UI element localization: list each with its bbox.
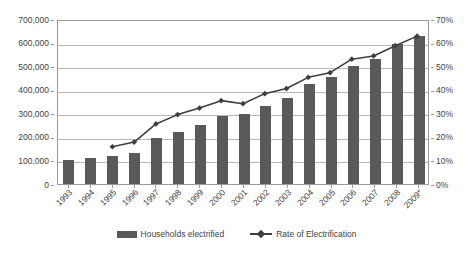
line-series-rate-of-electrification [58, 21, 428, 184]
y-axis-left-tick-label: 0 [44, 181, 49, 190]
line-marker-2002 [262, 91, 268, 97]
y-axis-left-tick-mark [51, 138, 54, 139]
y-axis-right: 0%10%20%30%40%50%60%70% [431, 20, 473, 185]
y-axis-left-tick-mark [51, 44, 54, 45]
legend-line-diamond-marker-icon [250, 230, 272, 238]
line-marker-2009-est [414, 33, 420, 39]
line-marker-2001 [240, 101, 246, 107]
chart-legend: Households electrifiedRate of Electrific… [0, 229, 473, 239]
y-axis-right-tick-mark [431, 67, 434, 68]
y-axis-left-tick-label: 300,000 [18, 110, 49, 119]
y-axis-left-tick-label: 100,000 [18, 157, 49, 166]
legend-item-label: Households electrified [141, 229, 225, 239]
line-marker-2004 [305, 74, 311, 80]
line-marker-2003 [284, 86, 290, 92]
x-axis-tick-mark [155, 185, 156, 188]
line-marker-1998 [175, 112, 181, 118]
y-axis-left-tick-mark [51, 185, 54, 186]
y-axis-left-tick-mark [51, 91, 54, 92]
y-axis-right-tick-label: 60% [436, 39, 453, 48]
line-marker-2000 [218, 98, 224, 104]
plot-area [57, 20, 429, 185]
y-axis-left: 0100,000200,000300,000400,000500,000600,… [0, 20, 54, 185]
line-marker-2007 [371, 53, 377, 59]
y-axis-left-tick-mark [51, 114, 54, 115]
y-axis-left-tick-label: 600,000 [18, 39, 49, 48]
y-axis-right-tick-label: 50% [436, 63, 453, 72]
line-marker-1995 [110, 144, 116, 150]
y-axis-right-tick-mark [431, 44, 434, 45]
y-axis-right-tick-mark [431, 91, 434, 92]
y-axis-right-tick-label: 30% [436, 110, 453, 119]
y-axis-right-tick-mark [431, 20, 434, 21]
y-axis-left-tick-label: 200,000 [18, 133, 49, 142]
y-axis-right-tick-label: 10% [436, 157, 453, 166]
y-axis-left-tick-mark [51, 67, 54, 68]
y-axis-right-tick-label: 70% [436, 16, 453, 25]
x-axis-years: 1993199419951996199719981999200020012002… [57, 186, 429, 226]
legend-bar-swatch-icon [117, 231, 137, 238]
y-axis-left-tick-mark [51, 20, 54, 21]
y-axis-left-tick-label: 700,000 [18, 16, 49, 25]
y-axis-right-tick-label: 20% [436, 133, 453, 142]
line-marker-2008 [392, 43, 398, 49]
y-axis-right-tick-label: 40% [436, 86, 453, 95]
y-axis-right-tick-label: 0% [436, 181, 448, 190]
y-axis-right-tick-mark [431, 114, 434, 115]
y-axis-left-tick-label: 500,000 [18, 63, 49, 72]
y-axis-right-tick-mark [431, 138, 434, 139]
legend-item-rate-of-electrification: Rate of Electrification [250, 229, 356, 239]
y-axis-left-tick-mark [51, 161, 54, 162]
chart-container: 0100,000200,000300,000400,000500,000600,… [0, 0, 473, 256]
line-marker-1999 [197, 105, 203, 111]
legend-item-households-electrified: Households electrified [117, 229, 225, 239]
y-axis-right-tick-mark [431, 185, 434, 186]
y-axis-right-tick-mark [431, 161, 434, 162]
legend-item-label: Rate of Electrification [276, 229, 356, 239]
y-axis-left-tick-label: 400,000 [18, 86, 49, 95]
x-axis-tick-mark [352, 185, 353, 188]
